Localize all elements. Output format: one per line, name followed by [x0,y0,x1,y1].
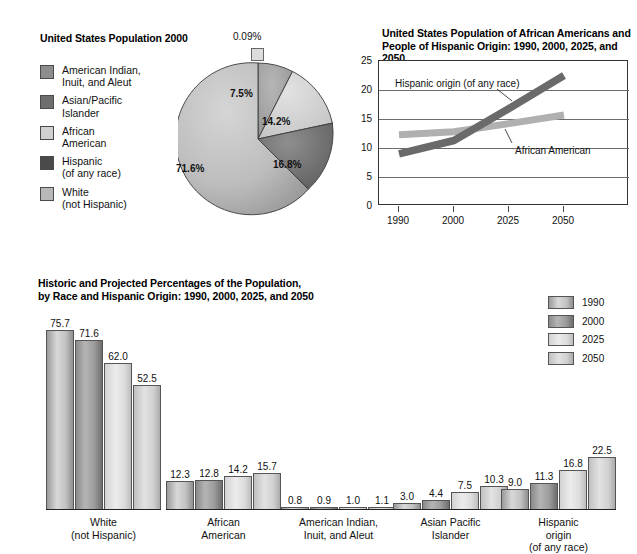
bar-chart-title: Historic and Projected Percentages of th… [38,277,368,302]
legend-label: Hispanic(of any race) [62,155,121,179]
bar-value-label: 4.4 [429,488,443,499]
leader-line-african-american [505,129,512,143]
legend-swatch-icon [40,156,54,170]
bar-group-2: 0.80.91.01.1American Indian,Inuit, and A… [281,320,396,510]
bar-2000-4: 11.3 [530,483,558,510]
x-axis-label-2050: 2050 [543,215,583,226]
annotation-hispanic: Hispanic origin (of any race) [395,78,520,89]
pie-svg [178,58,338,220]
bar-group-label: White(not Hispanic) [71,516,136,541]
bar-value-label: 3.0 [400,491,414,502]
bar-2050-4: 22.5 [588,457,616,510]
line-chart-title: United States Population of African Amer… [382,27,632,65]
y-axis-tick-5: 5 [352,171,372,182]
legend-swatch-icon [40,95,54,109]
bar-value-label: 52.5 [137,373,156,384]
bar-group-4: 9.011.316.822.5Hispanicorigin(of any rac… [501,320,616,510]
bar-group-baseline [501,509,616,510]
legend-item-african-american: AfricanAmerican [40,125,170,149]
line-chart: 25 20 15 10 5 0 Hispanic origin (of any … [352,60,632,245]
y-axis-tick-10: 10 [352,142,372,153]
bar-group-label: Asian PacificIslander [420,516,480,541]
bar-2050-1: 15.7 [253,473,281,510]
legend-swatch-icon [40,126,54,140]
bar-group-0: 75.771.662.052.5White(not Hispanic) [46,320,161,510]
bar-value-label: 22.5 [592,445,611,456]
bar-value-label: 16.8 [563,458,582,469]
pie-chart-title: United States Population 2000 [40,32,340,45]
bar-1990-1: 12.3 [166,481,194,510]
y-axis-tick-25: 25 [352,55,372,66]
pie-label-hispanic: 16.8% [273,159,301,170]
bar-value-label: 62.0 [108,351,127,362]
legend-label: 1990 [582,297,604,308]
bar-legend-item-1990: 1990 [548,296,604,309]
bar-1990-0: 75.7 [46,330,74,510]
bar-2025-0: 62.0 [104,363,132,510]
bar-value-label: 7.5 [458,480,472,491]
pie-legend: American Indian,Inuit, and Aleut Asian/P… [40,64,170,216]
legend-item-american-indian: American Indian,Inuit, and Aleut [40,64,170,88]
x-tick-mark-2000 [453,206,454,212]
legend-label: AfricanAmerican [62,125,106,149]
annotation-african-american: African American [515,145,591,156]
bar-value-label: 11.3 [535,471,554,482]
bar-value-label: 71.6 [79,328,98,339]
bar-group-baseline [166,509,281,510]
line-plot-area: Hispanic origin (of any race) African Am… [378,60,628,205]
bar-value-label: 15.7 [257,461,276,472]
pie-label-asian-pacific: 7.5% [230,88,253,99]
bar-group-baseline [393,509,508,510]
y-axis-tick-20: 20 [352,84,372,95]
bar-group-label: American Indian,Inuit, and Aleut [299,516,378,541]
x-axis-label-2000: 2000 [433,215,473,226]
bar-group-1: 12.312.814.215.7AfricanAmerican [166,320,281,510]
bar-2025-1: 14.2 [224,476,252,510]
pie-callout-marker-icon [251,48,264,61]
bar-2050-0: 52.5 [133,385,161,510]
legend-item-hispanic: Hispanic(of any race) [40,155,170,179]
pie-label-american-indian: 0.09% [233,31,261,42]
bar-value-label: 9.0 [508,477,522,488]
legend-label: Asian/PacificIslander [62,94,122,118]
x-axis-label-1990: 1990 [378,215,418,226]
x-tick-mark-2025 [508,206,509,212]
bar-value-label: 1.1 [375,495,389,506]
pie-label-white: 71.6% [176,163,204,174]
bar-1990-4: 9.0 [501,489,529,510]
x-tick-mark-1990 [398,206,399,212]
legend-item-asian-pacific: Asian/PacificIslander [40,94,170,118]
legend-label: White(not Hispanic) [62,186,127,210]
bar-value-label: 12.8 [199,468,218,479]
y-axis-tick-15: 15 [352,113,372,124]
bar-group-baseline [46,509,161,510]
x-tick-mark-2050 [563,206,564,212]
bar-2000-0: 71.6 [75,340,103,510]
bar-value-label: 75.7 [50,318,69,329]
pie-label-african-american: 14.2% [262,116,290,127]
bar-group-label: AfricanAmerican [201,516,245,541]
legend-swatch-icon [548,296,574,309]
bar-chart-plot: 75.771.662.052.5White(not Hispanic)12.31… [38,300,538,510]
bar-2025-3: 7.5 [451,492,479,510]
legend-label: American Indian,Inuit, and Aleut [62,64,141,88]
bar-value-label: 14.2 [228,464,247,475]
bar-value-label: 12.3 [170,469,189,480]
bar-2000-1: 12.8 [195,480,223,510]
bar-value-label: 0.8 [288,495,302,506]
legend-swatch-icon [40,65,54,79]
y-axis-tick-0: 0 [352,200,372,211]
leader-line-hispanic [497,89,512,101]
bar-value-label: 1.0 [346,495,360,506]
x-axis-label-2025: 2025 [488,215,528,226]
pie-chart: 0.09% 7.5% 14.2% 16.8% 71.6% [178,58,338,220]
legend-swatch-icon [40,187,54,201]
legend-item-white: White(not Hispanic) [40,186,170,210]
bar-value-label: 0.9 [317,495,331,506]
bar-2025-4: 16.8 [559,470,587,510]
bar-group-baseline [281,509,396,510]
bar-group-3: 3.04.47.510.3Asian PacificIslander [393,320,508,510]
bar-group-label: Hispanicorigin(of any race) [529,516,588,554]
